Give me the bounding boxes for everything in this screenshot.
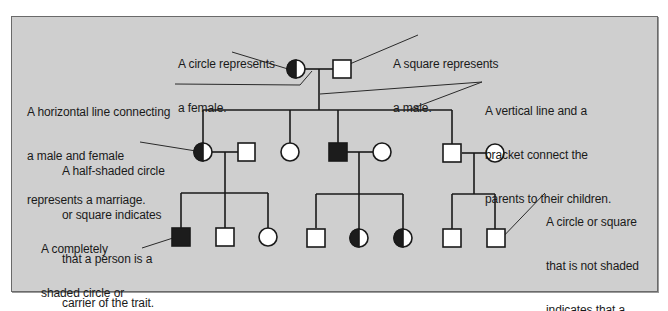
carrier-female-symbol (350, 229, 368, 247)
affected-male-symbol (172, 228, 190, 246)
callout-line: A vertical line and a (485, 104, 611, 119)
callout-line: a male. (393, 101, 499, 116)
callout-line: shaded circle or (41, 286, 140, 301)
callout-line: A horizontal line connecting (27, 105, 170, 120)
callout-square-male: A square represents a male. (393, 28, 499, 130)
callout-unaffected: A circle or square that is not shaded in… (546, 186, 642, 311)
unaffected-male-symbol (238, 143, 255, 161)
unaffected-female-symbol (259, 228, 277, 246)
callout-circle-female: A circle represents a female. (178, 28, 275, 130)
callout-affected: A completely shaded circle or square ind… (41, 213, 140, 311)
carrier-female-symbol (394, 229, 412, 247)
callout-line: that is not shaded (546, 259, 642, 274)
unaffected-male-symbol (443, 229, 461, 247)
callout-line: A half-shaded circle (62, 164, 165, 179)
callout-line: a female. (178, 101, 275, 116)
callout-line: indicates that a (546, 303, 642, 311)
unaffected-male-symbol (443, 144, 461, 162)
affected-male-symbol (329, 143, 347, 161)
unaffected-male-symbol (487, 229, 505, 247)
callout-line: A completely (41, 242, 140, 257)
callout-line: A circle represents (178, 57, 275, 72)
unaffected-male-symbol (307, 229, 325, 247)
unaffected-female-symbol (373, 143, 391, 161)
carrier-female-symbol (287, 60, 305, 78)
unaffected-female-symbol (281, 143, 299, 161)
callout-line: A square represents (393, 57, 499, 72)
unaffected-male-symbol (216, 228, 234, 246)
unaffected-male-symbol (333, 60, 351, 78)
callout-line: A circle or square (546, 215, 642, 230)
callout-line: bracket connect the (485, 148, 611, 163)
carrier-female-symbol (194, 143, 212, 161)
